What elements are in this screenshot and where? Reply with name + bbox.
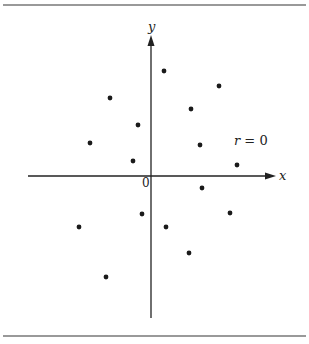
data-point bbox=[187, 251, 192, 256]
y-axis-arrow-icon bbox=[148, 35, 155, 46]
correlation-annotation: r = 0 bbox=[234, 133, 268, 148]
x-axis-arrow-icon bbox=[265, 173, 276, 180]
data-point bbox=[131, 159, 136, 164]
origin-label: 0 bbox=[142, 176, 150, 190]
scatter-figure: x y 0 r = 0 bbox=[0, 0, 309, 344]
x-axis-label: x bbox=[279, 168, 287, 183]
data-point bbox=[136, 123, 141, 128]
data-point bbox=[235, 163, 240, 168]
data-point bbox=[140, 212, 145, 217]
data-point bbox=[108, 96, 113, 101]
scatter-plot: x y 0 r = 0 bbox=[0, 0, 309, 344]
data-point bbox=[77, 225, 82, 230]
data-point bbox=[162, 69, 167, 74]
data-point bbox=[189, 107, 194, 112]
data-point bbox=[217, 84, 222, 89]
data-point bbox=[198, 143, 203, 148]
y-axis-label: y bbox=[147, 19, 156, 34]
data-point bbox=[228, 211, 233, 216]
data-points bbox=[77, 69, 240, 280]
data-point bbox=[104, 275, 109, 280]
data-point bbox=[200, 186, 205, 191]
data-point bbox=[88, 141, 93, 146]
data-point bbox=[164, 225, 169, 230]
